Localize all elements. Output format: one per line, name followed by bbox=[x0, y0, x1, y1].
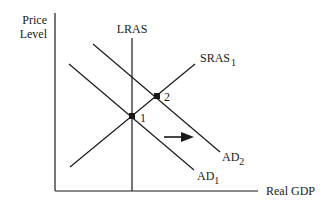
ad1-label: AD1 bbox=[197, 169, 219, 186]
equilibrium-point-1 bbox=[129, 113, 135, 119]
ad2-label-subscript: 2 bbox=[239, 156, 244, 167]
ad1-label-main: AD bbox=[197, 169, 215, 183]
y-axis-label-line2: Level bbox=[20, 27, 48, 41]
sras1-label-main: SRAS bbox=[200, 51, 230, 65]
sras1-label-subscript: 1 bbox=[231, 57, 236, 68]
ad-as-diagram: Price Level Real GDP LRAS SRAS1 AD1 AD2 … bbox=[0, 0, 336, 208]
equilibrium-point-2 bbox=[154, 93, 160, 99]
sras1-label: SRAS1 bbox=[200, 51, 236, 68]
ad2-label-main: AD bbox=[222, 150, 240, 164]
lras-label: LRAS bbox=[117, 22, 148, 36]
point-2-label: 2 bbox=[164, 90, 170, 104]
right-arrow-icon bbox=[164, 132, 194, 142]
ad2-label: AD2 bbox=[222, 150, 244, 167]
ad1-label-subscript: 1 bbox=[214, 175, 219, 186]
y-axis-label-line1: Price bbox=[22, 13, 47, 27]
point-1-label: 1 bbox=[140, 111, 146, 125]
x-axis-label: Real GDP bbox=[266, 184, 315, 198]
